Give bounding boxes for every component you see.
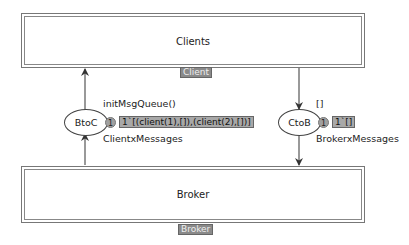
place-btoc-initial-marking: initMsgQueue() xyxy=(103,98,176,109)
transition-clients-label: Clients xyxy=(22,36,364,47)
place-btoc-token-count: 1 xyxy=(105,117,116,128)
place-btoc[interactable]: BtoC xyxy=(64,109,108,136)
subpage-tag-broker[interactable]: Broker xyxy=(178,224,213,235)
place-btoc-label: BtoC xyxy=(75,117,98,128)
place-btoc-current-marking: 1`[(client(1),[]),(client(2),[])] xyxy=(119,116,254,128)
place-ctob[interactable]: CtoB xyxy=(278,109,321,136)
subpage-tag-client[interactable]: Client xyxy=(180,67,212,78)
transition-clients[interactable]: Clients xyxy=(21,13,365,68)
place-btoc-colorset: ClientxMessages xyxy=(103,133,183,144)
place-ctob-current-marking: 1`[] xyxy=(332,116,355,128)
place-ctob-colorset: BrokerxMessages xyxy=(316,133,399,144)
transition-broker-label: Broker xyxy=(22,189,364,200)
place-ctob-token-count: 1 xyxy=(318,117,329,128)
transition-broker[interactable]: Broker xyxy=(21,166,365,223)
place-ctob-label: CtoB xyxy=(288,117,311,128)
place-ctob-initial-marking: [] xyxy=(316,98,323,109)
